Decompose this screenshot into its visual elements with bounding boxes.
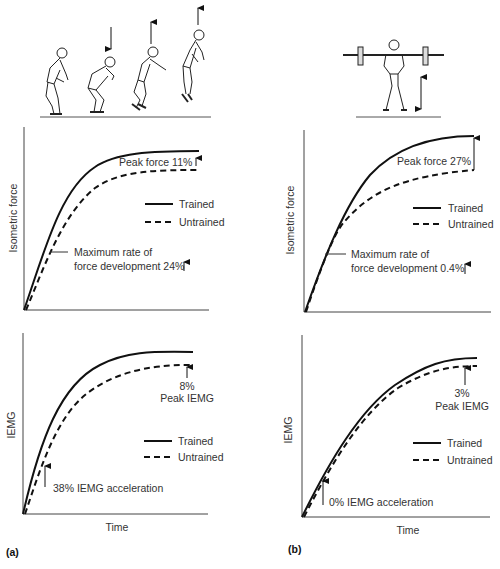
trained-curve [24, 151, 199, 310]
athlete-figure-3 [132, 47, 166, 110]
x-axis-label: Time [106, 521, 129, 533]
figure-canvas: Peak force 11% Trained Untrained Maximum… [0, 0, 500, 569]
panel-label-a: (a) [6, 546, 19, 558]
y-axis-label: IEMG [282, 417, 294, 444]
rate-label-line1: Maximum rate of [74, 246, 152, 258]
legend-trained-label: Trained [448, 202, 483, 214]
peak-iemg-label: Peak IEMG [160, 392, 214, 404]
legend-untrained-label: Untrained [178, 451, 224, 463]
legend-untrained-label: Untrained [447, 454, 493, 466]
chart-a-force: Peak force 11% Trained Untrained Maximum… [7, 127, 225, 310]
peak-force-label: Peak force 27% [397, 155, 471, 167]
untrained-curve [26, 170, 199, 310]
chart-a-iemg: 8% Peak IEMG Trained Untrained 38% IEMG … [5, 333, 224, 533]
iemg-acceleration-label: 0% IEMG acceleration [329, 496, 434, 508]
peak-iemg-value: 3% [454, 387, 469, 399]
legend-untrained-label: Untrained [448, 218, 494, 230]
athlete-figure-2 [88, 57, 115, 112]
chart-b-iemg: 3% Peak IEMG Trained Untrained 0% IEMG a… [282, 335, 493, 536]
jump-illustration [40, 8, 211, 117]
squat-illustration [343, 40, 444, 117]
rate-label-line2: force development 0.4% [351, 262, 464, 274]
panel-label-b: (b) [288, 543, 301, 555]
peak-iemg-label: Peak IEMG [435, 400, 489, 412]
chart-b-force: Peak force 27% Trained Untrained Maximum… [284, 130, 494, 312]
athlete-figure-4 [182, 30, 204, 102]
y-axis-label: Isometric force [7, 183, 19, 252]
iemg-acceleration-label: 38% IEMG acceleration [53, 482, 163, 494]
peak-force-label: Peak force 11% [119, 156, 192, 168]
y-axis-label: Isometric force [284, 185, 296, 254]
rate-label-line1: Maximum rate of [351, 248, 429, 260]
legend-trained-label: Trained [178, 435, 213, 447]
athlete-figure-1 [46, 48, 68, 114]
legend-untrained-label: Untrained [179, 216, 225, 228]
peak-iemg-value: 8% [179, 380, 194, 392]
x-axis-label: Time [397, 524, 420, 536]
rate-label-line2: force development 24% [74, 260, 184, 272]
legend-trained-label: Trained [447, 437, 482, 449]
y-axis-label: IEMG [5, 412, 17, 439]
legend-trained-label: Trained [179, 198, 214, 210]
